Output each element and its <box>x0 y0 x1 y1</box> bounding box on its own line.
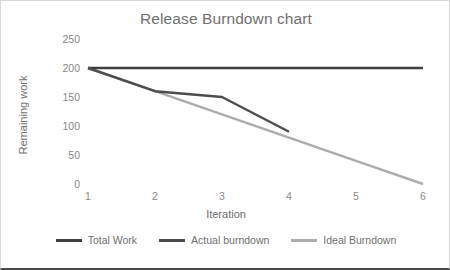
x-axis-title: Iteration <box>1 208 450 220</box>
x-axis-tick-label: 1 <box>73 191 103 202</box>
y-axis-tick-label: 250 <box>34 34 80 45</box>
legend-swatch-icon <box>56 239 82 242</box>
legend-swatch-icon <box>159 239 185 242</box>
chart-title: Release Burndown chart <box>1 10 450 28</box>
legend-item[interactable]: Actual burndown <box>159 235 269 246</box>
x-axis-tick-label: 5 <box>341 191 371 202</box>
x-axis-tick-labels: 123456 <box>88 191 423 205</box>
release-burndown-chart: Release Burndown chart 250200150100500 R… <box>0 0 450 270</box>
legend-label: Ideal Burndown <box>323 235 396 246</box>
legend-label: Actual burndown <box>191 235 269 246</box>
series-line-actual-burndown <box>88 68 289 132</box>
y-axis-tick-label: 150 <box>34 92 80 103</box>
y-axis-tick-label: 50 <box>34 150 80 161</box>
legend-swatch-icon <box>291 239 317 242</box>
plot-lines <box>88 39 423 184</box>
x-axis-tick-label: 4 <box>274 191 304 202</box>
y-axis-tick-label: 100 <box>34 121 80 132</box>
legend-label: Total Work <box>88 235 137 246</box>
chart-legend: Total WorkActual burndownIdeal Burndown <box>1 235 450 246</box>
y-axis-title: Remaining work <box>17 55 29 175</box>
x-axis-tick-label: 6 <box>408 191 438 202</box>
y-axis-tick-labels: 250200150100500 <box>34 31 80 192</box>
plot-area <box>88 39 423 184</box>
legend-item[interactable]: Ideal Burndown <box>291 235 396 246</box>
y-axis-tick-label: 200 <box>34 63 80 74</box>
x-axis-tick-label: 2 <box>140 191 170 202</box>
x-axis-tick-label: 3 <box>207 191 237 202</box>
y-axis-tick-label: 0 <box>34 179 80 190</box>
legend-item[interactable]: Total Work <box>56 235 137 246</box>
